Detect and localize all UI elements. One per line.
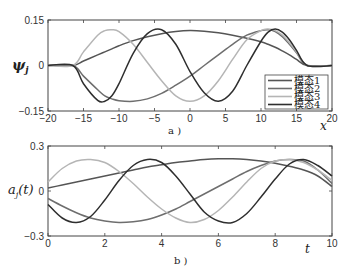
panel-a-caption: a )	[168, 125, 181, 136]
panel-b-caption: b )	[174, 255, 188, 266]
panel-b-xlabel: t	[305, 242, 310, 256]
y-tick-label: 0.15	[25, 15, 45, 26]
legend-label-mode4: 模态4	[294, 98, 320, 110]
panel-b-chart: 0246810−0.300.3 aj(t) t b )	[8, 141, 338, 267]
x-tick-label: 8	[272, 238, 278, 249]
series-line-mode3	[48, 159, 332, 222]
y-tick-label: −0.3	[24, 231, 44, 242]
panel-a-chart: −20−15−10−505101520−0.1500.15 ψj x a ) 模…	[12, 15, 338, 137]
x-tick-label: 10	[255, 113, 267, 124]
legend: 模态1 模态2 模态3 模态4	[265, 74, 328, 110]
x-tick-label: 2	[102, 238, 108, 249]
series-line-mode1	[48, 31, 332, 66]
y-tick-label: −0.15	[19, 106, 45, 117]
x-tick-label: 0	[45, 238, 51, 249]
x-tick-label: −5	[149, 113, 161, 124]
series-line-mode4	[48, 159, 332, 223]
series-line-mode1	[48, 159, 332, 188]
figure: −20−15−10−505101520−0.1500.15 ψj x a ) 模…	[0, 0, 347, 276]
panel-a-xlabel: x	[320, 119, 327, 133]
y-tick-label: 0	[38, 186, 44, 197]
x-tick-label: −10	[111, 113, 128, 124]
x-tick-label: 20	[326, 113, 338, 124]
x-tick-label: 0	[187, 113, 193, 124]
x-tick-label: 5	[223, 113, 229, 124]
y-tick-label: 0	[38, 60, 44, 71]
x-tick-label: 4	[159, 238, 165, 249]
x-tick-label: 6	[216, 238, 222, 249]
panel-a-ylabel: ψj	[12, 57, 29, 75]
panel-b-ticks: 0246810−0.300.3	[24, 141, 338, 250]
x-tick-label: −15	[75, 113, 92, 124]
x-tick-label: 15	[291, 113, 303, 124]
panel-b-ylabel: aj(t)	[8, 182, 34, 199]
y-tick-label: 0.3	[30, 141, 44, 152]
series-line-mode2	[48, 159, 332, 222]
panel-b-curves	[48, 159, 332, 223]
x-tick-label: 10	[326, 238, 338, 249]
